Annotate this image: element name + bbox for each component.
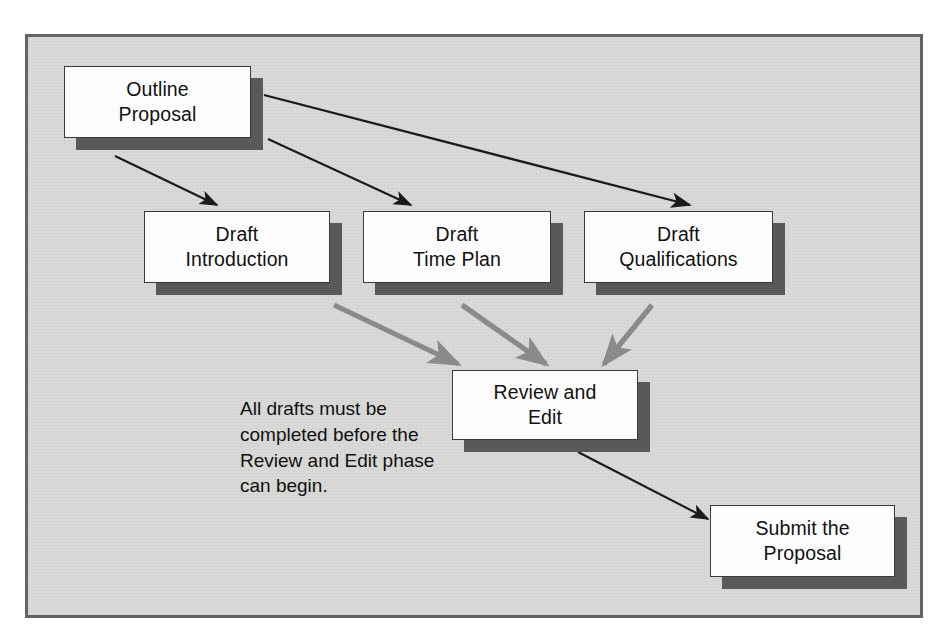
- node-draft-qualifications-label: Draft Qualifications: [619, 222, 737, 272]
- node-draft-time-plan[interactable]: Draft Time Plan: [363, 211, 551, 283]
- node-review-and-edit-label: Review and Edit: [494, 380, 597, 430]
- node-outline-proposal[interactable]: Outline Proposal: [64, 66, 251, 138]
- node-draft-introduction-label: Draft Introduction: [185, 222, 288, 272]
- node-draft-qualifications[interactable]: Draft Qualifications: [584, 211, 773, 283]
- node-draft-time-plan-label: Draft Time Plan: [413, 222, 501, 272]
- node-submit-the-proposal[interactable]: Submit the Proposal: [710, 505, 895, 577]
- node-outline-proposal-label: Outline Proposal: [119, 77, 197, 127]
- node-draft-introduction[interactable]: Draft Introduction: [144, 211, 330, 283]
- annotation-note: All drafts must be completed before the …: [240, 396, 480, 499]
- node-submit-the-proposal-label: Submit the Proposal: [755, 516, 849, 566]
- flowchart-canvas: Outline Proposal Draft Introduction Draf…: [0, 0, 947, 635]
